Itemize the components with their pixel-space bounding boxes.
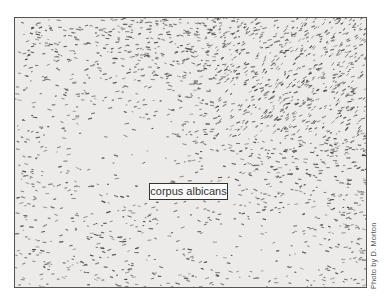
corpus-albicans-label: corpus albicans (149, 183, 228, 200)
tissue-texture (15, 18, 367, 288)
micrograph-photo (14, 17, 367, 288)
photo-credit: Photo by D. Morton (369, 223, 378, 289)
